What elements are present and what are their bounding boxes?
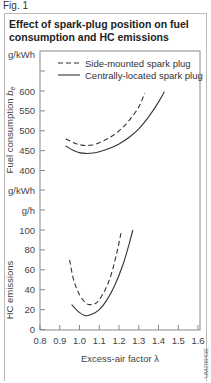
y-axis-title-fuel: Fuel consumption be — [4, 86, 16, 173]
x-axis-title: Excess-air factor λ — [81, 353, 159, 364]
hc-central-curve — [72, 230, 133, 316]
x-tick-label: 1.4 — [152, 335, 165, 346]
y-tick-label: 600 — [19, 86, 35, 97]
image-code: UMZ0043E — [203, 348, 209, 378]
y-tick-label: 0 — [30, 324, 35, 335]
fuel-side-mounted-curve — [66, 93, 145, 146]
y-tick-label: 20 — [24, 304, 35, 315]
y-tick-label: 60 — [24, 264, 35, 275]
legend-label: Centrally-located spark plug — [85, 70, 203, 81]
x-tick-label: 1.1 — [93, 335, 106, 346]
y-unit-fuel: g/kWh — [8, 185, 35, 196]
y-tick-label: 450 — [19, 145, 35, 156]
y-axis-title-hc: HC emissions — [4, 260, 15, 319]
x-tick-label: 1.6 — [191, 335, 204, 346]
y-unit-hc: g/h — [22, 205, 35, 216]
y-tick-label: 100 — [19, 225, 35, 236]
y-tick-label: 80 — [24, 244, 35, 255]
y-tick-label: 500 — [19, 125, 35, 136]
chart-svg: g/kWh600550500450400g/kWhg/h100806040200… — [0, 0, 211, 383]
x-tick-label: 1.3 — [132, 335, 145, 346]
x-tick-label: 0.9 — [53, 335, 66, 346]
fuel-central-curve — [66, 92, 165, 154]
x-tick-label: 1.2 — [112, 335, 125, 346]
y-tick-label: 40 — [24, 284, 35, 295]
plot-area: g/kWh600550500450400g/kWhg/h100806040200… — [4, 49, 209, 378]
hc-side-mounted-curve — [70, 233, 121, 305]
x-tick-label: 0.8 — [33, 335, 46, 346]
y-unit-label: g/kWh — [8, 49, 35, 60]
y-tick-label: 550 — [19, 105, 35, 116]
x-tick-label: 1.5 — [172, 335, 185, 346]
legend-label: Side-mounted spark plug — [85, 58, 191, 69]
x-tick-label: 1.0 — [73, 335, 86, 346]
plot-frame — [40, 51, 200, 330]
y-tick-label: 400 — [19, 165, 35, 176]
